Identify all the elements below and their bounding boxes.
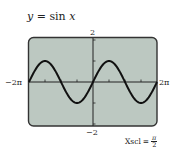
xmin-label: −2π <box>5 78 22 87</box>
ymin-label: −2 <box>86 128 98 137</box>
ymax-label: 2 <box>90 28 95 37</box>
xmax-label: 2π <box>159 78 169 87</box>
xscl-equals: = <box>143 137 149 146</box>
xscl-label: Xscl <box>125 137 141 146</box>
xscl-fraction: π 2 <box>151 135 157 148</box>
xscl-annotation: Xscl = π 2 <box>125 135 157 148</box>
xscl-denominator: 2 <box>152 142 156 148</box>
graph-window: −2π 2π 2 −2 <box>0 0 176 154</box>
